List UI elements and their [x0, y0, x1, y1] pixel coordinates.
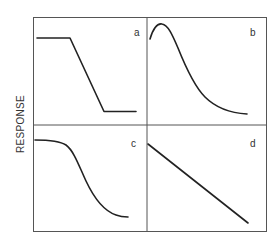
curve-c — [35, 140, 128, 217]
panel-a: a — [37, 27, 140, 112]
panel-label-c: c — [131, 138, 136, 149]
y-axis-label: RESPONSE — [15, 95, 26, 153]
panel-label-d: d — [250, 138, 256, 149]
curve-d — [148, 144, 248, 223]
panel-label-b: b — [250, 27, 256, 38]
panel-b: b — [150, 24, 256, 114]
curve-b — [150, 24, 247, 114]
response-curves-diagram: RESPONSE a b c d — [0, 0, 279, 240]
grid-frame — [34, 18, 267, 232]
curve-a — [37, 38, 136, 112]
panel-label-a: a — [134, 27, 140, 38]
panel-d: d — [148, 138, 256, 223]
panel-c: c — [35, 138, 136, 217]
